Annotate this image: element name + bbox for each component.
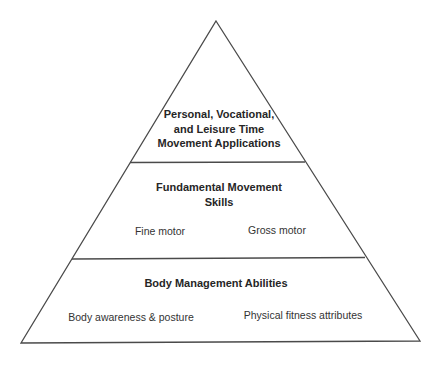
tier-base-title-line-1: Body Management Abilities [144, 276, 287, 291]
tier-middle-title-line-1: Fundamental Movement [156, 180, 282, 195]
tier-top-title-line-3: Movement Applications [157, 136, 280, 151]
tier-top-title-line-2: and Leisure Time [157, 122, 280, 137]
tier-base-item-body-awareness: Body awareness & posture [68, 311, 194, 324]
tier-middle-title-line-2: Skills [156, 195, 282, 210]
tier-base-item-physical-fitness: Physical fitness attributes [244, 309, 362, 322]
tier-divider-top [130, 162, 305, 163]
tier-top-title-line-1: Personal, Vocational, [157, 107, 280, 122]
tier-top-title: Personal, Vocational, and Leisure Time M… [157, 107, 280, 151]
tier-base-title: Body Management Abilities [144, 276, 287, 291]
tier-middle-item-fine-motor: Fine motor [135, 225, 185, 238]
tier-middle-item-gross-motor: Gross motor [248, 224, 306, 237]
tier-middle-title: Fundamental Movement Skills [156, 180, 282, 209]
